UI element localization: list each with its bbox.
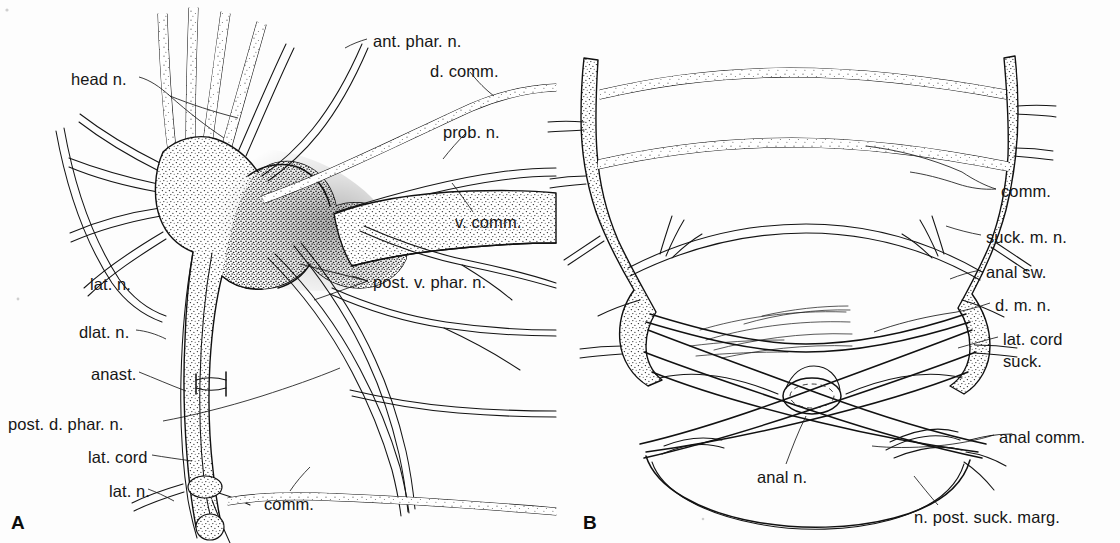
label-d-comm: d. comm. xyxy=(430,63,499,80)
label-n-post-suck-marg: n. post. suck. marg. xyxy=(914,509,1060,526)
label-lat-cord-b: lat. cord xyxy=(1003,331,1063,348)
label-lat-n-upper: lat. n. xyxy=(90,276,131,293)
label-prob-n: prob. n. xyxy=(443,124,500,141)
panel-b-artwork xyxy=(548,56,1056,529)
label-v-comm: v. comm. xyxy=(455,214,522,231)
label-anal-comm: anal comm. xyxy=(999,429,1085,446)
label-dlat-n: dlat. n. xyxy=(79,324,129,341)
label-anal-n: anal n. xyxy=(757,469,807,486)
label-comm-b: comm. xyxy=(1001,183,1051,200)
panel-letter-b: B xyxy=(583,512,597,534)
label-head-n: head n. xyxy=(71,71,127,88)
label-anast: anast. xyxy=(91,366,137,383)
label-ant-phar-n: ant. phar. n. xyxy=(373,33,461,50)
label-post-v-phar-n: post. v. phar. n. xyxy=(373,274,486,291)
figure-canvas: ant. phar. n. head n. d. comm. prob. n. … xyxy=(0,0,1120,543)
label-anal-sw: anal sw. xyxy=(986,264,1046,281)
label-lat-cord-a: lat. cord xyxy=(88,449,148,466)
panel-letter-a: A xyxy=(11,512,25,534)
label-post-d-phar-n: post. d. phar. n. xyxy=(8,416,123,433)
label-suck-m-n: suck. m. n. xyxy=(986,229,1067,246)
label-suck: suck. xyxy=(1003,353,1042,370)
sucker-nerve-arcs xyxy=(640,314,986,458)
label-comm-a: comm. xyxy=(264,496,314,513)
label-d-m-n: d. m. n. xyxy=(995,297,1051,314)
label-lat-n-lower: lat. n. xyxy=(109,483,150,500)
figure-artwork xyxy=(0,0,1120,543)
